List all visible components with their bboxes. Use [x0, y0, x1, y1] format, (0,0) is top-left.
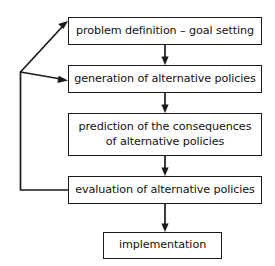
node-generation: generation of alternative policies	[68, 65, 262, 93]
arrow-generation-to-prediction	[161, 93, 168, 113]
feedback-evaluation-to-junction	[21, 72, 69, 190]
node-prediction-label: prediction of the consequences of altern…	[79, 120, 252, 149]
node-problem-definition: problem definition – goal setting	[68, 17, 262, 45]
node-problem-definition-label: problem definition – goal setting	[76, 24, 254, 38]
node-implementation: implementation	[103, 232, 222, 259]
feedback-junction-to-problem	[21, 21, 69, 72]
node-generation-label: generation of alternative policies	[74, 72, 256, 86]
arrow-prediction-to-evaluation	[161, 156, 168, 176]
flowchart-diagram: problem definition – goal setting genera…	[0, 0, 275, 266]
node-implementation-label: implementation	[119, 238, 206, 252]
node-evaluation: evaluation of alternative policies	[68, 176, 262, 204]
feedback-junction-to-generation	[21, 72, 69, 83]
arrow-problem-to-generation	[161, 45, 168, 65]
node-evaluation-label: evaluation of alternative policies	[75, 183, 255, 197]
node-prediction: prediction of the consequences of altern…	[68, 113, 262, 156]
arrow-evaluation-to-implementation	[161, 204, 168, 232]
